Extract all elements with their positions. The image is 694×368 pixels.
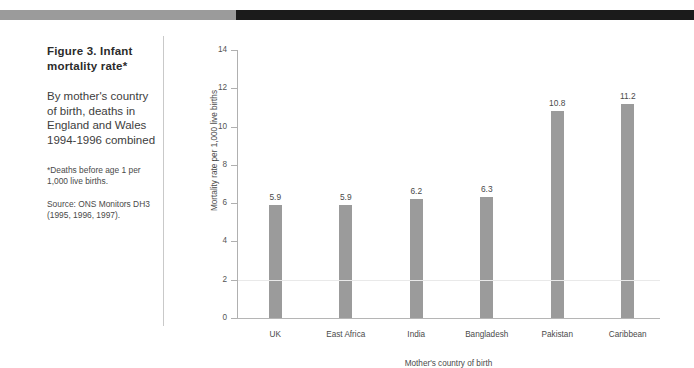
x-axis-title: Mother's country of birth — [237, 359, 660, 368]
y-axis-tick — [231, 241, 237, 242]
y-axis-tick-label: 4 — [203, 237, 227, 245]
y-axis-tick — [231, 203, 237, 204]
bar — [269, 205, 282, 318]
bar — [410, 199, 423, 318]
bar-chart: Mortality rate per 1,000 live births 024… — [182, 36, 682, 356]
x-axis-category-label: Caribbean — [588, 331, 668, 339]
figure-description: By mother's country of birth, deaths in … — [47, 89, 157, 147]
figure-title: Figure 3. Infant mortality rate* — [47, 44, 157, 73]
plot-area: 02468101214 5.95.96.26.310.811.2 UKEast … — [237, 50, 660, 318]
bar-value-label: 10.8 — [535, 99, 579, 107]
y-axis-tick — [231, 50, 237, 51]
bar-value-label: 6.3 — [465, 185, 509, 193]
y-axis-tick-label: 8 — [203, 161, 227, 169]
bar — [551, 111, 564, 318]
bar — [480, 197, 493, 318]
bar — [339, 205, 352, 318]
figure-footnote: *Deaths before age 1 per 1,000 live birt… — [47, 165, 157, 187]
bar — [621, 104, 634, 318]
y-axis-line — [237, 50, 238, 318]
y-axis-tick-label: 2 — [203, 276, 227, 284]
x-axis-category-label: UK — [235, 331, 315, 339]
y-axis-tick-label: 14 — [203, 46, 227, 54]
bar-value-label: 5.9 — [253, 193, 297, 201]
x-axis-line — [237, 318, 660, 319]
y-axis-tick-label: 10 — [203, 123, 227, 131]
header-rule-black-segment — [236, 10, 694, 20]
y-axis-tick-label: 12 — [203, 84, 227, 92]
header-rule — [0, 10, 694, 20]
y-axis-tick-label: 0 — [203, 314, 227, 322]
figure-source: Source: ONS Monitors DH3 (1995, 1996, 19… — [47, 199, 157, 221]
y-axis-tick — [231, 88, 237, 89]
figure-caption-column: Figure 3. Infant mortality rate* By moth… — [47, 44, 157, 233]
x-axis-category-label: Pakistan — [517, 331, 597, 339]
y-axis-tick — [231, 280, 237, 281]
y-axis-tick — [231, 318, 237, 319]
y-axis-tick — [231, 165, 237, 166]
x-axis-category-label: India — [376, 331, 456, 339]
x-axis-category-label: Bangladesh — [447, 331, 527, 339]
bar-value-label: 6.2 — [394, 187, 438, 195]
header-rule-gray-segment — [0, 10, 236, 20]
x-axis-category-label: East Africa — [306, 331, 386, 339]
caption-divider — [163, 36, 164, 326]
y-axis-tick — [231, 127, 237, 128]
bar-value-label: 11.2 — [606, 92, 650, 100]
plot-inner-rule — [238, 280, 660, 281]
y-axis-tick-label: 6 — [203, 199, 227, 207]
bar-value-label: 5.9 — [324, 193, 368, 201]
